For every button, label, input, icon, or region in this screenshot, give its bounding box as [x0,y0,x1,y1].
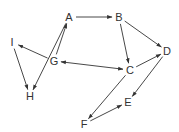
edge-d-e [132,57,162,97]
edge-g-c [61,62,123,69]
node-c: C [126,64,134,76]
node-d: D [163,45,171,57]
node-g: G [50,55,59,67]
node-b: B [115,11,122,23]
nodes-layer: ABCDEFGHI [10,11,171,130]
edge-i-h [14,49,28,90]
node-i: I [10,36,13,48]
node-h: H [26,90,34,102]
node-e: E [124,96,131,108]
node-f: F [81,118,88,130]
node-a: A [65,11,73,23]
edge-b-c [120,24,128,63]
edge-b-d [125,21,162,47]
edge-c-d [136,54,161,67]
edges-layer [14,17,163,121]
edge-g-i [18,45,47,58]
edge-f-e [90,105,121,121]
graph-canvas: ABCDEFGHI [0,0,179,132]
